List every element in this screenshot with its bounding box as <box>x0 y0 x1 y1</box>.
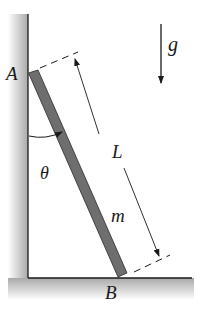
label-point-a: A <box>6 64 18 83</box>
label-length: L <box>112 142 123 161</box>
length-dimension-upper <box>75 59 99 134</box>
label-point-b: B <box>105 283 117 302</box>
label-mass: m <box>111 206 125 225</box>
length-dimension-lower <box>124 168 159 256</box>
dim-extension-top <box>40 52 78 68</box>
wall-shading <box>8 14 28 278</box>
floor-shading <box>8 278 194 300</box>
dim-extension-bottom <box>134 255 170 272</box>
label-angle: θ <box>40 164 49 182</box>
label-gravity: g <box>168 34 178 54</box>
